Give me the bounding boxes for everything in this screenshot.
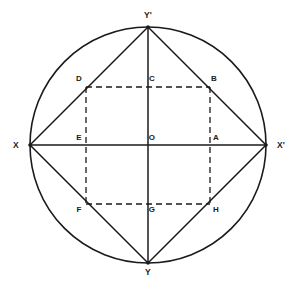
point-label-C: C <box>149 74 155 83</box>
point-label-Y: Y <box>145 267 151 277</box>
point-label-Yp: Y' <box>144 10 152 20</box>
point-label-Xp: X' <box>277 140 285 150</box>
point-label-G: G <box>149 205 155 214</box>
point-label-E: E <box>76 133 82 142</box>
vertex-marker-X <box>28 143 32 147</box>
point-label-D: D <box>76 74 82 83</box>
point-label-A: A <box>213 133 219 142</box>
vertex-marker-Y <box>146 261 150 265</box>
point-label-O: O <box>149 133 155 142</box>
vertex-marker-Yp <box>146 25 150 29</box>
vertex-marker-Xp <box>264 143 268 147</box>
point-label-H: H <box>213 205 219 214</box>
point-label-X: X <box>13 140 19 150</box>
point-label-F: F <box>76 205 81 214</box>
geometry-diagram: Y' X X' Y D C B E O A F G H <box>0 0 294 284</box>
point-label-B: B <box>211 74 217 83</box>
figure-svg: Y' X X' Y D C B E O A F G H <box>0 0 294 284</box>
